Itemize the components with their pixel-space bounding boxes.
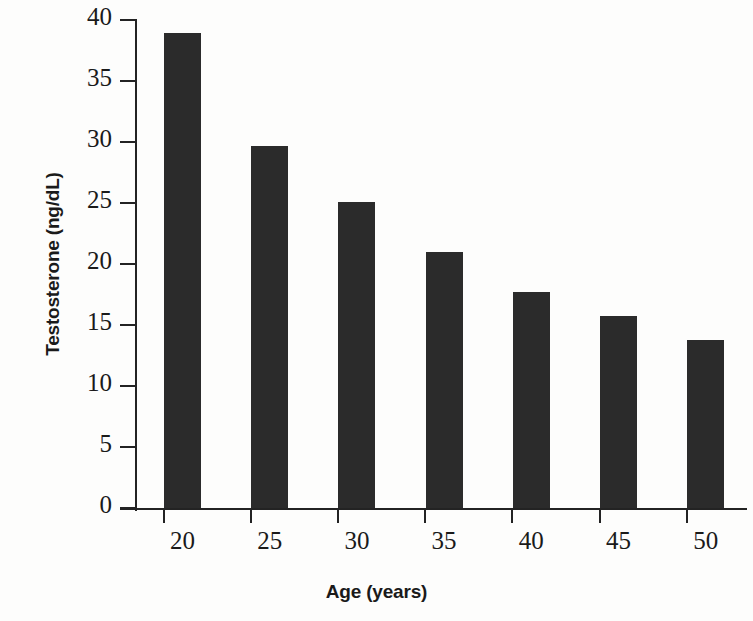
y-tick-mark xyxy=(120,324,136,326)
chart-page: Testosterone (ng/dL) Age (years) 0510152… xyxy=(0,0,753,621)
x-axis-title: Age (years) xyxy=(0,581,753,603)
x-tick-label: 30 xyxy=(322,527,392,555)
y-tick-mark xyxy=(120,446,136,448)
x-tick-label: 35 xyxy=(409,527,479,555)
y-tick-label: 10 xyxy=(58,369,112,397)
bar xyxy=(338,202,375,508)
y-tick-label: 15 xyxy=(58,308,112,336)
x-tick-label: 50 xyxy=(671,527,741,555)
y-tick-mark xyxy=(120,80,136,82)
x-tick-label: 20 xyxy=(148,527,218,555)
y-tick-label: 5 xyxy=(58,430,112,458)
y-tick-mark xyxy=(120,263,136,265)
x-tick-mark xyxy=(599,509,601,523)
x-axis-line xyxy=(120,508,747,510)
y-tick-mark xyxy=(120,141,136,143)
x-tick-mark xyxy=(424,509,426,523)
x-tick-label: 45 xyxy=(584,527,654,555)
y-tick-label: 25 xyxy=(58,186,112,214)
bar xyxy=(513,292,550,508)
y-tick-label: 20 xyxy=(58,247,112,275)
x-tick-mark xyxy=(686,509,688,523)
bar xyxy=(426,252,463,508)
x-tick-mark xyxy=(163,509,165,523)
y-tick-label: 40 xyxy=(58,3,112,31)
bar xyxy=(600,316,637,508)
y-tick-mark xyxy=(120,507,136,509)
x-tick-label: 25 xyxy=(235,527,305,555)
bar xyxy=(687,340,724,508)
y-tick-mark xyxy=(120,385,136,387)
x-tick-mark xyxy=(250,509,252,523)
bar xyxy=(251,146,288,508)
y-tick-label: 30 xyxy=(58,125,112,153)
y-tick-label: 0 xyxy=(58,491,112,519)
y-tick-mark xyxy=(120,202,136,204)
x-tick-mark xyxy=(511,509,513,523)
y-tick-mark xyxy=(120,19,136,21)
y-axis-line xyxy=(135,19,137,511)
x-tick-label: 40 xyxy=(496,527,566,555)
y-tick-label: 35 xyxy=(58,64,112,92)
bar xyxy=(164,33,201,508)
x-tick-mark xyxy=(337,509,339,523)
